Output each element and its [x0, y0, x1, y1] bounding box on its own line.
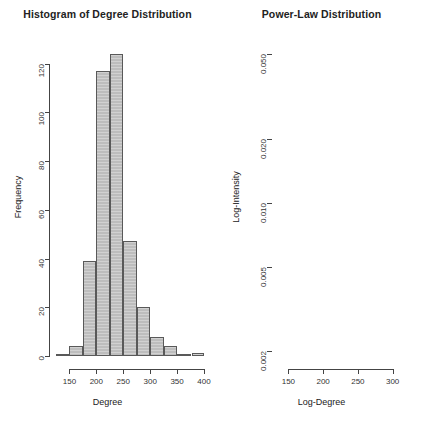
scatter-x-axis-title: Log-Degree	[214, 397, 429, 407]
histogram-x-tick-label: 200	[85, 378, 107, 386]
scatter-y-axis-title: Log-Intensity	[231, 159, 241, 235]
histogram-y-tick-label: 20	[38, 307, 46, 327]
scatter-x-tick	[393, 369, 394, 374]
histogram-x-tick-label: 300	[139, 378, 161, 386]
histogram-y-tick-label: 60	[38, 210, 46, 230]
histogram-bar	[69, 346, 82, 356]
scatter-title: Power-Law Distribution	[214, 8, 429, 20]
histogram-x-tick	[96, 369, 97, 374]
histogram-bar	[164, 346, 177, 356]
histogram-x-tick	[69, 369, 70, 374]
scatter-x-tick	[358, 369, 359, 374]
histogram-bar	[150, 337, 163, 357]
histogram-panel: Histogram of Degree Distribution Frequen…	[0, 0, 215, 431]
histogram-x-tick	[123, 369, 124, 374]
histogram-x-axis-line	[69, 369, 204, 370]
scatter-x-tick	[323, 369, 324, 374]
scatter-y-tick-label: 0.005	[260, 267, 268, 293]
histogram-x-tick	[150, 369, 151, 374]
histogram-x-tick-label: 250	[112, 378, 134, 386]
histogram-x-tick-label: 400	[193, 378, 215, 386]
scatter-x-tick-label: 150	[277, 378, 299, 386]
histogram-y-tick-label: 100	[38, 112, 46, 132]
histogram-plot-area	[56, 44, 204, 356]
histogram-bar	[192, 353, 204, 356]
histogram-bar	[110, 54, 123, 356]
histogram-bar	[123, 241, 136, 356]
histogram-x-axis-title: Degree	[0, 397, 215, 407]
histogram-y-tick-label: 40	[38, 259, 46, 279]
histogram-bar	[177, 354, 190, 356]
scatter-y-tick-label: 0.020	[260, 139, 268, 165]
histogram-y-axis-title: Frequency	[13, 167, 23, 227]
scatter-y-tick-label: 0.010	[260, 203, 268, 229]
histogram-bar	[96, 71, 109, 356]
histogram-x-tick	[204, 369, 205, 374]
scatter-y-tick-label: 0.050	[260, 54, 268, 80]
histogram-y-tick-label: 0	[38, 356, 46, 376]
histogram-bar	[137, 307, 150, 356]
histogram-title: Histogram of Degree Distribution	[0, 8, 215, 20]
scatter-x-tick-label: 200	[312, 378, 334, 386]
scatter-x-tick-label: 300	[382, 378, 404, 386]
histogram-y-tick-label: 80	[38, 161, 46, 181]
histogram-y-tick-label: 120	[38, 64, 46, 84]
histogram-bar	[83, 261, 96, 356]
scatter-panel: Power-Law Distribution Log-Intensity Log…	[214, 0, 429, 431]
figure-two-panel: Histogram of Degree Distribution Frequen…	[0, 0, 429, 431]
scatter-x-tick-label: 250	[347, 378, 369, 386]
scatter-x-axis-line	[288, 369, 392, 370]
histogram-bar	[56, 354, 69, 356]
histogram-x-tick-label: 350	[166, 378, 188, 386]
histogram-x-tick-label: 150	[58, 378, 80, 386]
histogram-x-tick	[177, 369, 178, 374]
scatter-y-tick-label: 0.002	[260, 351, 268, 377]
scatter-x-tick	[288, 369, 289, 374]
